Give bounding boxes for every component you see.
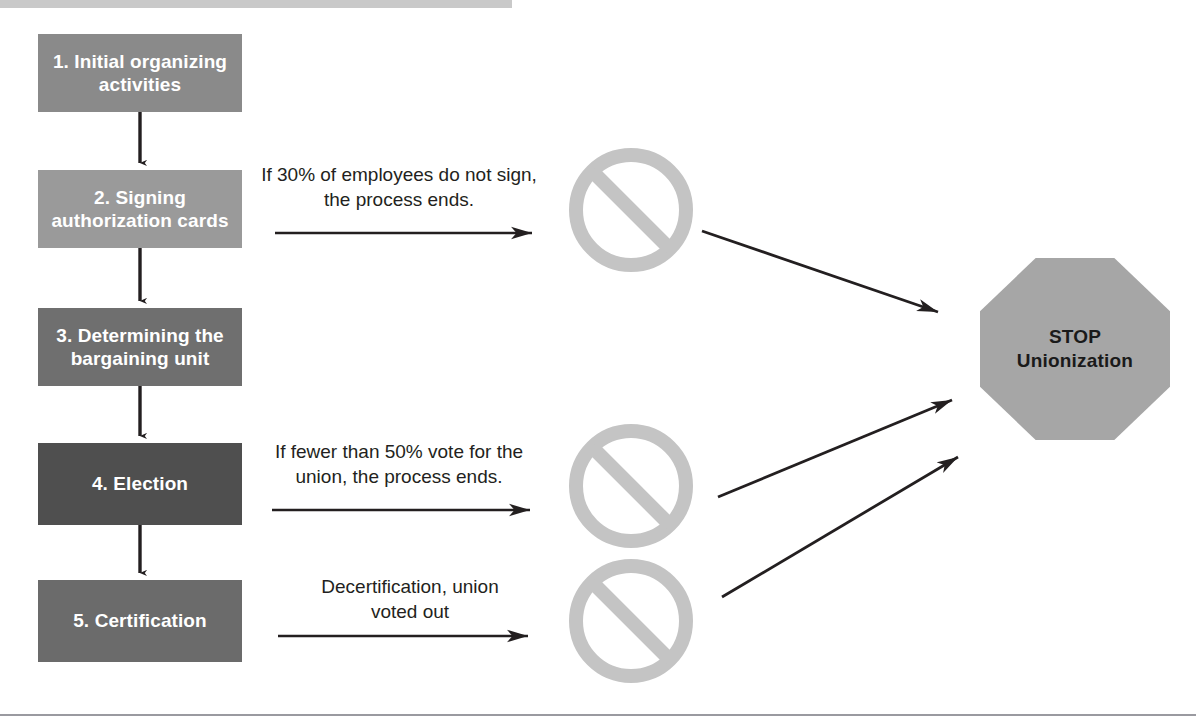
- d-arrow-cards-to-stop: [702, 231, 938, 312]
- step-box-1[interactable]: 1. Initial organizing activities: [38, 34, 242, 112]
- step-box-1-label: 1. Initial organizing activities: [46, 50, 234, 96]
- step-box-5[interactable]: 5. Certification: [38, 580, 242, 662]
- edge-label-election-vote: If fewer than 50% vote for the union, th…: [252, 440, 546, 489]
- stop-unionization-sign[interactable]: STOP Unionization: [975, 253, 1175, 445]
- stop-sign-line-2: Unionization: [1017, 349, 1133, 373]
- edge-label-decertification: Decertification, union voted out: [300, 575, 520, 624]
- step-box-5-label: 5. Certification: [73, 609, 207, 632]
- step-box-4[interactable]: 4. Election: [38, 443, 242, 525]
- bottom-rule-divider: [0, 714, 1196, 716]
- step-box-3[interactable]: 3. Determining the bargaining unit: [38, 308, 242, 386]
- step-box-3-label: 3. Determining the bargaining unit: [46, 324, 234, 370]
- prohibition-sign-cards: [576, 155, 686, 265]
- stop-sign-text: STOP Unionization: [1017, 325, 1133, 373]
- edge-label-authorization-cards: If 30% of employees do not sign, the pro…: [250, 163, 548, 212]
- d-arrow-decertification-to-stop: [722, 457, 958, 597]
- step-box-2[interactable]: 2. Signing authorization cards: [38, 170, 242, 248]
- prohibition-sign-election: [576, 431, 686, 541]
- diagonal-connectors: [702, 231, 958, 597]
- step-box-2-label: 2. Signing authorization cards: [46, 186, 234, 232]
- stop-sign-line-1: STOP: [1017, 325, 1133, 349]
- diagram-canvas: 1. Initial organizing activities 2. Sign…: [0, 0, 1196, 725]
- step-box-4-label: 4. Election: [92, 472, 188, 495]
- prohibition-sign-decertification: [576, 566, 686, 676]
